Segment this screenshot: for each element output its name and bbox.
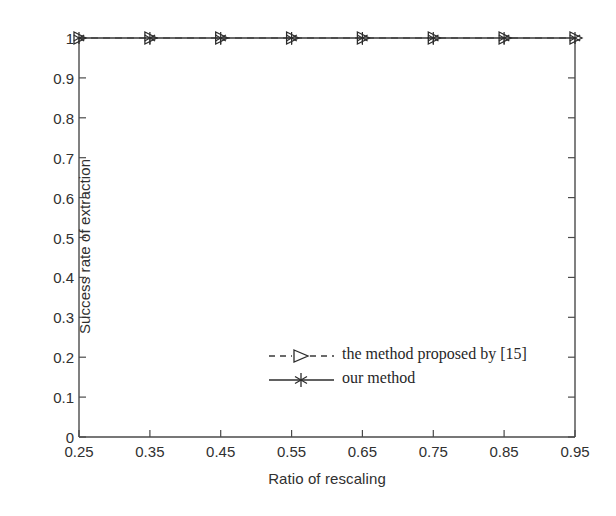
x-tick-label: 0.95 — [540, 443, 610, 460]
y-tick-label: 0.3 — [28, 309, 74, 326]
y-tick-label: 0.4 — [28, 269, 74, 286]
y-tick-label: 0.1 — [28, 389, 74, 406]
x-tick-label: 0.55 — [257, 443, 327, 460]
x-tick-label: 0.85 — [469, 443, 539, 460]
dashed-triangle-sample — [268, 344, 336, 368]
legend-label: the method proposed by [15] — [342, 345, 527, 363]
series-our-method — [74, 32, 580, 44]
solid-asterisk-sample — [268, 368, 336, 392]
y-tick-label: 0.8 — [28, 109, 74, 126]
chart-legend: the method proposed by [15] our method — [268, 344, 568, 392]
x-axis-label: Ratio of rescaling — [79, 470, 575, 487]
chart-figure: 0 0.1 0.2 0.3 0.4 0.5 0.6 0.7 0.8 0.9 1 … — [0, 0, 616, 516]
x-tick-label: 0.35 — [115, 443, 185, 460]
y-tick-label: 0.2 — [28, 349, 74, 366]
y-tick-label: 1 — [28, 30, 74, 47]
x-tick-label: 0.65 — [327, 443, 397, 460]
x-tick-label: 0.25 — [44, 443, 114, 460]
legend-item-method-15: the method proposed by [15] — [268, 344, 568, 368]
y-axis-tick-labels: 0 0.1 0.2 0.3 0.4 0.5 0.6 0.7 0.8 0.9 1 — [24, 0, 74, 516]
y-tick-label: 0.7 — [28, 149, 74, 166]
y-tick-label: 0.6 — [28, 189, 74, 206]
y-tick-label: 0.9 — [28, 69, 74, 86]
y-tick-label: 0.5 — [28, 229, 74, 246]
y-axis-label: Success rate of extraction — [76, 77, 93, 417]
x-tick-label: 0.45 — [186, 443, 256, 460]
legend-label: our method — [342, 369, 415, 387]
x-tick-label: 0.75 — [398, 443, 468, 460]
legend-item-our-method: our method — [268, 368, 568, 392]
